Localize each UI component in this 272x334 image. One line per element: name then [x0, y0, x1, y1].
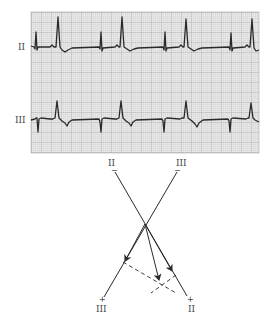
lead-ii-vector-arrow — [145, 224, 172, 271]
resultant-axis-arrow — [145, 224, 159, 280]
lead-iii-label: III — [15, 115, 26, 125]
axis-label-iii-bottom: III — [96, 304, 107, 314]
lead-ii-label: II — [18, 42, 26, 52]
ecg-axis-figure: II III II III − − + + III II — [0, 0, 272, 334]
lead-iii-negative-sign: − — [174, 166, 181, 175]
lead-iii-positive-sign: + — [99, 295, 106, 304]
lead-iii-axis-line — [104, 172, 177, 297]
lead-iii-vector-arrow — [125, 224, 145, 261]
lead-ii-positive-sign: + — [187, 295, 194, 304]
ecg-grid — [31, 12, 259, 153]
perpendicular-from-iii-dashed — [123, 262, 176, 293]
axis-label-ii-bottom: II — [188, 304, 196, 314]
axis-vector-diagram — [104, 172, 187, 297]
grid-lines — [31, 12, 259, 153]
lead-ii-negative-sign: − — [111, 166, 118, 175]
